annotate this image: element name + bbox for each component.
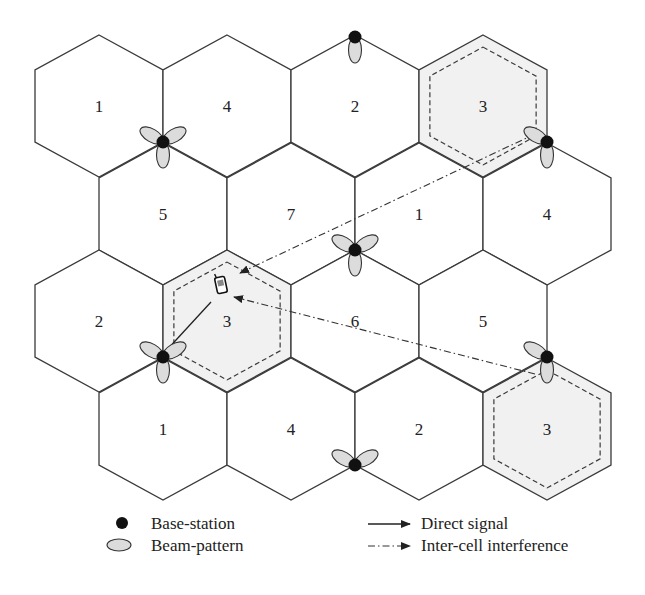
cell-label: 1: [415, 205, 424, 224]
cell-label: 2: [415, 420, 424, 439]
base-station-icon: [349, 459, 362, 472]
cell-label: 3: [479, 97, 488, 116]
base-station-icon: [349, 244, 362, 257]
base-station: [349, 31, 362, 64]
cell-label: 1: [159, 420, 168, 439]
beam-pattern-icon: [107, 539, 131, 551]
cell-label: 1: [95, 97, 104, 116]
base-station-icon: [157, 136, 170, 149]
base-station-icon: [349, 31, 362, 44]
legend-label-interference: Inter-cell interference: [421, 536, 568, 555]
cell-label: 7: [287, 205, 296, 224]
cell-label: 3: [223, 312, 232, 331]
base-station-icon: [541, 136, 554, 149]
legend: Base-station Beam-pattern Direct signal …: [107, 514, 568, 555]
cell-label: 2: [351, 97, 360, 116]
legend-label-beam-pattern: Beam-pattern: [151, 536, 244, 555]
cell-label: 2: [95, 312, 104, 331]
legend-item-interference: Inter-cell interference: [368, 536, 568, 555]
cellular-diagram: 1423571423651423 Base-station Beam-patte…: [0, 0, 645, 595]
legend-label-base-station: Base-station: [151, 514, 236, 533]
hex-cells: 1423571423651423: [35, 35, 611, 500]
base-station-icon: [157, 351, 170, 364]
cell-label: 3: [543, 420, 552, 439]
legend-label-direct-signal: Direct signal: [421, 514, 509, 533]
cell-label: 4: [543, 205, 552, 224]
legend-item-direct-signal: Direct signal: [368, 514, 509, 533]
cell-label: 5: [479, 312, 488, 331]
legend-item-base-station: Base-station: [116, 514, 236, 533]
cell-label: 4: [287, 420, 296, 439]
legend-item-beam-pattern: Beam-pattern: [107, 536, 244, 555]
cell-label: 4: [223, 97, 232, 116]
cell-label: 5: [159, 205, 168, 224]
base-station-icon: [116, 517, 128, 529]
base-station-icon: [541, 351, 554, 364]
